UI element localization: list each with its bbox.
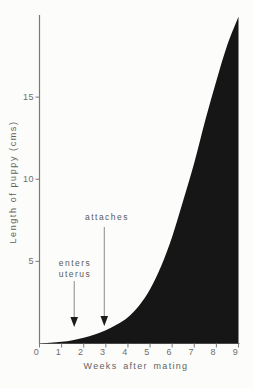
growth-area bbox=[40, 17, 239, 344]
y-tick-label: 10 bbox=[13, 174, 34, 184]
enters-uterus-arrow-head bbox=[70, 317, 78, 327]
x-tick-label: 5 bbox=[138, 347, 156, 357]
x-tick-label: 7 bbox=[182, 347, 200, 357]
annotation-attaches: attaches bbox=[85, 212, 129, 223]
x-tick-label: 6 bbox=[160, 347, 178, 357]
annotation-enters-uterus-line2: uterus bbox=[59, 269, 92, 280]
annotation-attaches-text: attaches bbox=[85, 212, 129, 223]
x-tick-label: 9 bbox=[227, 347, 245, 357]
x-axis-title: Weeks after mating bbox=[84, 361, 189, 371]
annotation-enters-uterus: enters uterus bbox=[59, 258, 92, 280]
chart-canvas bbox=[0, 0, 253, 388]
annotation-enters-uterus-line1: enters bbox=[59, 258, 92, 269]
attaches-arrow-head bbox=[100, 316, 108, 326]
x-tick-label: 2 bbox=[72, 347, 90, 357]
x-tick-label: 8 bbox=[204, 347, 222, 357]
growth-chart-figure: Length of puppy (cms) Weeks after mating… bbox=[0, 0, 253, 388]
x-tick-label: 4 bbox=[116, 347, 134, 357]
x-tick-label: 1 bbox=[50, 347, 68, 357]
y-tick-label: 5 bbox=[13, 256, 34, 266]
y-tick-label: 15 bbox=[13, 92, 34, 102]
x-tick-label: 0 bbox=[28, 347, 46, 357]
x-tick-label: 3 bbox=[94, 347, 112, 357]
